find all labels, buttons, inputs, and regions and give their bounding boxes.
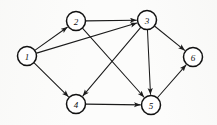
graph-edge-1-to-4 [34,63,68,97]
graph-node-label-4: 4 [74,100,79,110]
graph-node-1[interactable]: 1 [18,47,37,66]
graph-canvas: 123456 [0,0,217,125]
graph-node-6[interactable]: 6 [184,48,203,67]
graph-node-5[interactable]: 5 [142,96,161,115]
edge-layer [34,20,186,105]
graph-node-2[interactable]: 2 [67,12,86,31]
graph-node-3[interactable]: 3 [138,11,157,30]
graph-edge-1-to-2 [35,27,67,50]
graph-node-label-1: 1 [25,52,30,62]
directed-graph-figure: 123456 [0,0,217,125]
graph-node-4[interactable]: 4 [67,95,86,114]
graph-edge-2-to-5 [83,28,144,97]
graph-node-label-3: 3 [144,16,150,26]
graph-edge-3-to-6 [155,26,185,50]
graph-node-label-6: 6 [191,53,196,63]
node-layer: 123456 [18,11,203,115]
graph-edge-4-to-5 [86,104,140,105]
graph-edge-2-to-3 [86,20,136,21]
graph-node-label-2: 2 [74,17,79,27]
graph-node-label-5: 5 [149,101,154,111]
graph-edge-5-to-6 [158,65,186,97]
graph-edge-3-to-5 [147,30,150,94]
